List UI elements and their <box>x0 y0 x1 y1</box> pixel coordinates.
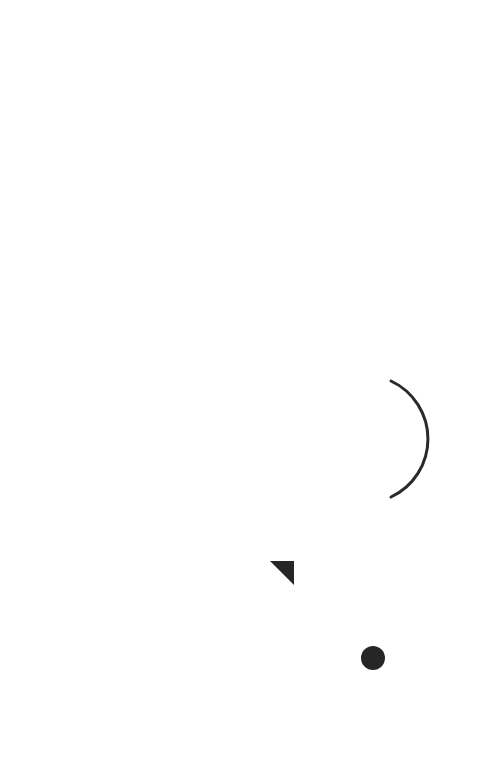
dot-shape <box>361 646 385 670</box>
triangle-shape <box>270 561 294 585</box>
drawing-canvas <box>0 0 492 774</box>
arc-shape <box>391 381 428 497</box>
